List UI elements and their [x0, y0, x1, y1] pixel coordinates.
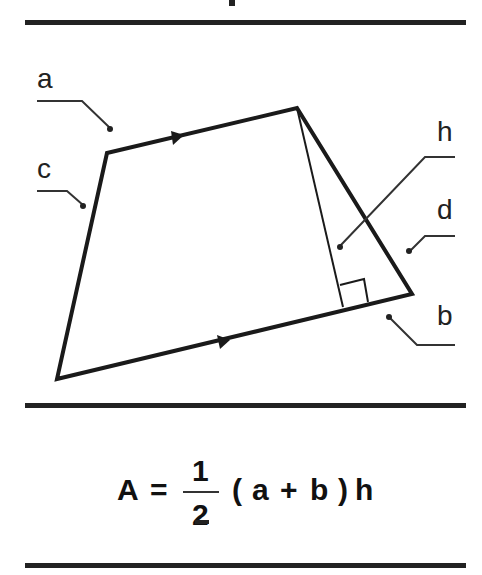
middle-rule: [25, 403, 466, 408]
formula-lhs: A: [117, 475, 139, 505]
formula-open-paren: (: [232, 475, 242, 505]
label-h: h: [437, 118, 453, 146]
formula-equals: =: [150, 475, 168, 505]
formula-a: a: [252, 475, 269, 505]
formula-denominator: 2: [192, 500, 209, 530]
leader-d: [410, 236, 455, 251]
right-angle-marker: [340, 279, 368, 302]
label-d: d: [437, 196, 453, 224]
formula-close-paren: ): [338, 475, 348, 505]
height-line: [297, 108, 343, 307]
formula-h: h: [355, 475, 373, 505]
formula-plus: +: [280, 475, 298, 505]
formula-numerator: 1: [192, 456, 209, 486]
fraction-bar: [183, 491, 219, 493]
label-c: c: [37, 155, 51, 183]
trapezoid-outline: [57, 108, 412, 379]
cut-off-glyph: [195, 520, 209, 524]
bottom-rule: [25, 563, 466, 568]
label-b: b: [437, 302, 453, 330]
parallel-arrow-top-icon: [171, 131, 184, 145]
formula-b: b: [310, 475, 328, 505]
label-a: a: [37, 65, 53, 93]
leader-c: [37, 191, 83, 205]
leader-a: [37, 101, 110, 128]
